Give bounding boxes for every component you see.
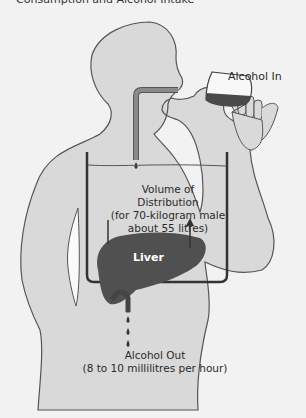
alcohol-out-label: Alcohol Out (8 to 10 millilitres per hou… bbox=[80, 349, 230, 375]
volume-line-4: about 55 litres) bbox=[108, 222, 228, 235]
volume-distribution-label: Volume of Distribution (for 70-kilogram … bbox=[108, 183, 228, 235]
volume-line-3: (for 70-kilogram male bbox=[108, 209, 228, 222]
volume-line-1: Volume of bbox=[108, 183, 228, 196]
volume-line-2: Distribution bbox=[108, 196, 228, 209]
alcohol-out-line-2: (8 to 10 millilitres per hour) bbox=[80, 362, 230, 375]
alcohol-out-line-1: Alcohol Out bbox=[80, 349, 230, 362]
liver-label: Liver bbox=[133, 251, 164, 264]
alcohol-in-label: Alcohol In bbox=[228, 70, 282, 83]
